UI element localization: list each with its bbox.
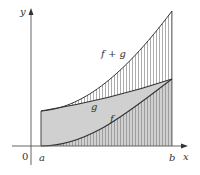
y-axis-arrow-icon (29, 8, 34, 15)
g-label: g (91, 101, 97, 112)
origin-label: 0 (22, 151, 28, 162)
a-label: a (39, 152, 45, 163)
b-label: b (169, 152, 175, 163)
diagram-canvas: y x 0 a b f + g g f (0, 0, 200, 175)
x-axis-arrow-icon (181, 144, 188, 149)
x-axis-label: x (183, 151, 189, 162)
y-axis-label: y (19, 6, 26, 17)
f-plus-g-label: f + g (100, 48, 126, 59)
